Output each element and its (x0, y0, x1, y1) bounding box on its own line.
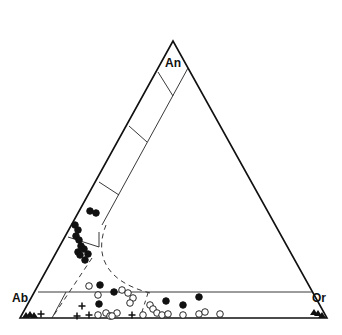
open-circle-point (217, 311, 224, 318)
division-line (99, 182, 119, 195)
filled-circle-point (97, 282, 104, 289)
data-points (22, 208, 326, 320)
open-circle-point (119, 287, 126, 294)
label-an: An (165, 56, 181, 70)
open-circle-point (159, 312, 166, 319)
filled-circle-point (85, 251, 92, 258)
filled-circle-point (93, 210, 100, 217)
division-line (129, 126, 147, 142)
division-line (158, 72, 173, 96)
label-or: Or (312, 291, 326, 305)
open-circle-point (95, 292, 102, 299)
ternary-diagram: An Ab Or (0, 0, 342, 335)
triangle-outline (20, 41, 327, 318)
open-circle-point (86, 283, 93, 290)
filled-circle-point (77, 252, 84, 259)
open-circle-point (125, 290, 132, 297)
cross-point (38, 311, 45, 318)
open-circle-point (165, 311, 172, 318)
open-circle-point (109, 313, 116, 320)
label-ab: Ab (12, 291, 28, 305)
filled-circle-point (163, 298, 170, 305)
open-circle-point (140, 312, 147, 319)
filled-circle-point (111, 289, 118, 296)
open-circle-point (127, 300, 134, 307)
open-circle-point (202, 309, 209, 316)
solvus-curve (102, 225, 150, 293)
filled-circle-point (96, 301, 103, 308)
filled-circle-point (196, 294, 203, 301)
filled-circle-point (180, 302, 187, 309)
cross-point (79, 303, 86, 310)
filled-circle-point (82, 257, 89, 264)
open-circle-point (180, 312, 187, 319)
open-circle-point (95, 312, 102, 319)
